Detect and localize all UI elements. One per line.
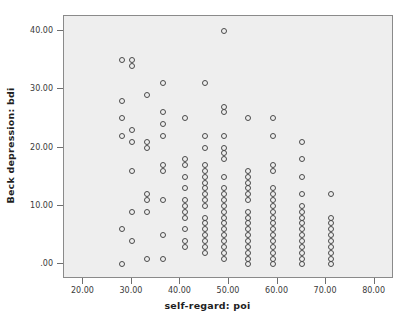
data-point (245, 185, 251, 191)
data-point (182, 238, 188, 244)
data-point (182, 226, 188, 232)
data-point (299, 238, 305, 244)
data-point (221, 109, 227, 115)
x-tick-label: 40.00 (168, 286, 191, 295)
data-point (299, 174, 305, 180)
data-point (270, 162, 276, 168)
data-point (299, 156, 305, 162)
data-point (221, 209, 227, 215)
data-point (270, 115, 276, 121)
data-point (160, 197, 166, 203)
data-point (245, 191, 251, 197)
data-point (144, 209, 150, 215)
data-point (245, 250, 251, 256)
y-axis-title-label: Beck depression: bdi (6, 87, 17, 203)
x-tick-label: 70.00 (314, 286, 337, 295)
data-point (299, 250, 305, 256)
data-point (221, 145, 227, 151)
x-axis-title: self-regard: poi (0, 300, 415, 311)
data-point (221, 244, 227, 250)
data-point (202, 203, 208, 209)
x-tick-label: 30.00 (119, 286, 142, 295)
data-point (328, 220, 334, 226)
data-point (202, 174, 208, 180)
data-point (270, 250, 276, 256)
data-point (221, 156, 227, 162)
data-point (299, 244, 305, 250)
data-point (202, 250, 208, 256)
data-point (119, 115, 125, 121)
data-point (221, 191, 227, 197)
x-tick-mark (131, 278, 132, 284)
data-points-layer (64, 16, 392, 277)
data-point (160, 80, 166, 86)
data-point (182, 174, 188, 180)
data-point (221, 256, 227, 262)
x-axis-title-label: self-regard: poi (165, 300, 251, 311)
x-tick-label: 60.00 (265, 286, 288, 295)
plot-area (63, 15, 393, 278)
data-point (221, 226, 227, 232)
data-point (144, 145, 150, 151)
data-point (202, 220, 208, 226)
data-point (129, 168, 135, 174)
data-point (328, 191, 334, 197)
data-point (299, 139, 305, 145)
data-point (299, 226, 305, 232)
data-point (245, 232, 251, 238)
data-point (129, 57, 135, 63)
data-point (245, 256, 251, 262)
data-point (182, 156, 188, 162)
data-point (160, 232, 166, 238)
data-point (299, 191, 305, 197)
data-point (129, 238, 135, 244)
data-point (270, 256, 276, 262)
data-point (270, 226, 276, 232)
data-point (270, 244, 276, 250)
data-point (221, 215, 227, 221)
data-point (299, 220, 305, 226)
data-point (245, 215, 251, 221)
data-point (119, 261, 125, 267)
data-point (160, 133, 166, 139)
data-point (270, 185, 276, 191)
data-point (144, 191, 150, 197)
data-point (245, 174, 251, 180)
data-point (245, 168, 251, 174)
data-point (182, 244, 188, 250)
data-point (328, 238, 334, 244)
data-point (221, 238, 227, 244)
data-point (299, 256, 305, 262)
data-point (270, 209, 276, 215)
data-point (182, 209, 188, 215)
data-point (202, 145, 208, 151)
data-point (202, 180, 208, 186)
data-point (202, 226, 208, 232)
data-point (245, 261, 251, 267)
data-point (160, 168, 166, 174)
data-point (182, 197, 188, 203)
data-point (182, 162, 188, 168)
data-point (328, 250, 334, 256)
scatter-plot-figure: .0010.0020.0030.0040.00 20.0030.0040.005… (0, 0, 415, 321)
data-point (202, 244, 208, 250)
data-point (119, 226, 125, 232)
data-point (160, 121, 166, 127)
data-point (270, 191, 276, 197)
data-point (270, 220, 276, 226)
data-point (245, 220, 251, 226)
data-point (144, 256, 150, 262)
x-tick-mark (228, 278, 229, 284)
data-point (328, 232, 334, 238)
data-point (270, 215, 276, 221)
data-point (270, 133, 276, 139)
data-point (299, 209, 305, 215)
data-point (202, 185, 208, 191)
data-point (245, 197, 251, 203)
data-point (270, 261, 276, 267)
data-point (221, 28, 227, 34)
data-point (245, 238, 251, 244)
y-tick-mark (57, 88, 63, 89)
data-point (221, 133, 227, 139)
x-tick-mark (374, 278, 375, 284)
